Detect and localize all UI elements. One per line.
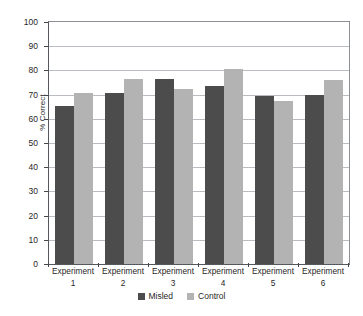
- bar-misled-1[interactable]: [55, 106, 74, 265]
- bar-control-2[interactable]: [124, 79, 143, 264]
- x-axis-label-line2: 1: [47, 278, 99, 290]
- chart-legend: MisledControl: [0, 291, 363, 301]
- x-axis-label-1: Experiment1: [47, 266, 99, 289]
- bar-group: [199, 22, 249, 264]
- bar-misled-6[interactable]: [305, 95, 324, 264]
- y-tick-label: 10: [4, 235, 38, 245]
- y-tick-label: 90: [4, 41, 38, 51]
- x-axis-label-line1: Experiment: [302, 266, 344, 276]
- y-tick-label: 20: [4, 211, 38, 221]
- x-axis-label-line1: Experiment: [202, 266, 244, 276]
- y-tick-label: 80: [4, 65, 38, 75]
- y-tick-label: 100: [4, 17, 38, 27]
- bar-control-3[interactable]: [174, 89, 193, 264]
- bar-group: [249, 22, 299, 264]
- bar-control-4[interactable]: [224, 69, 243, 264]
- x-axis-label-line2: 3: [147, 278, 199, 290]
- legend-swatch-misled: [138, 293, 145, 300]
- bar-control-1[interactable]: [74, 93, 93, 264]
- legend-label-misled: Misled: [149, 291, 174, 301]
- y-tick-label: 50: [4, 138, 38, 148]
- bar-misled-2[interactable]: [105, 93, 124, 264]
- x-axis-label-line1: Experiment: [152, 266, 194, 276]
- bar-misled-5[interactable]: [255, 96, 274, 264]
- bar-chart-figure: % Correct 0102030405060708090100 Experim…: [0, 0, 363, 316]
- x-axis-label-line2: 4: [197, 278, 249, 290]
- bar-group: [149, 22, 199, 264]
- x-axis-label-line1: Experiment: [102, 266, 144, 276]
- legend-item-misled[interactable]: Misled: [138, 291, 174, 301]
- x-axis-label-line1: Experiment: [252, 266, 294, 276]
- x-axis-label-line1: Experiment: [52, 266, 94, 276]
- x-axis-label-5: Experiment5: [247, 266, 299, 289]
- bars-layer: [49, 22, 349, 264]
- y-tick-label: 0: [4, 259, 38, 269]
- y-tick-label: 40: [4, 162, 38, 172]
- bar-misled-4[interactable]: [205, 86, 224, 264]
- y-tick-label: 30: [4, 186, 38, 196]
- x-axis-label-3: Experiment3: [147, 266, 199, 289]
- y-tick-label: 70: [4, 90, 38, 100]
- bar-control-6[interactable]: [324, 80, 343, 264]
- bar-control-5[interactable]: [274, 101, 293, 264]
- bar-group: [299, 22, 349, 264]
- legend-swatch-control: [187, 293, 194, 300]
- bar-group: [49, 22, 99, 264]
- x-axis-label-line2: 6: [297, 278, 349, 290]
- legend-item-control[interactable]: Control: [187, 291, 225, 301]
- x-axis-label-4: Experiment4: [197, 266, 249, 289]
- x-axis-label-2: Experiment2: [97, 266, 149, 289]
- y-tick-label: 60: [4, 114, 38, 124]
- plot-area: [48, 21, 350, 265]
- bar-group: [99, 22, 149, 264]
- bar-misled-3[interactable]: [155, 79, 174, 264]
- x-axis-label-line2: 5: [247, 278, 299, 290]
- x-axis-label-line2: 2: [97, 278, 149, 290]
- x-axis-label-6: Experiment6: [297, 266, 349, 289]
- legend-label-control: Control: [198, 291, 225, 301]
- y-axis-ticks: 0102030405060708090100: [0, 21, 48, 264]
